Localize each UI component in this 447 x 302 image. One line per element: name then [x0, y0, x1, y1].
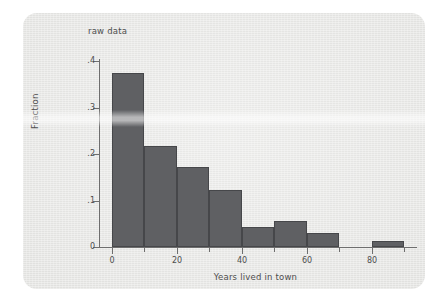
x-tick-mark: [112, 248, 113, 254]
histogram-bar: [242, 227, 274, 247]
x-tick-mark: [339, 248, 340, 252]
histogram-bar: [144, 146, 176, 247]
x-axis-label: Years lived in town: [0, 272, 447, 282]
y-axis-label: Fraction: [30, 93, 40, 129]
x-tick-mark: [144, 248, 145, 252]
histogram-bar: [307, 233, 339, 247]
x-tick-mark: [209, 248, 210, 252]
x-tick-mark: [372, 248, 373, 254]
y-tick-label: .1: [55, 196, 95, 205]
x-tick-label: 20: [162, 256, 192, 265]
x-tick-label: 60: [292, 256, 322, 265]
screenshot-root: raw data Fraction Years lived in town 0.…: [0, 0, 447, 302]
chart-title: raw data: [88, 26, 127, 36]
x-tick-mark: [242, 248, 243, 254]
x-tick-mark: [307, 248, 308, 254]
x-tick-mark: [177, 248, 178, 254]
x-tick-label: 40: [227, 256, 257, 265]
x-tick-label: 80: [357, 256, 387, 265]
histogram-bar: [177, 167, 209, 247]
y-tick-label: 0: [55, 242, 95, 251]
y-tick-label: .4: [55, 56, 95, 65]
histogram-plot: raw data Fraction Years lived in town 0.…: [0, 0, 447, 302]
histogram-bar: [112, 73, 144, 247]
x-axis-label-text: Years lived in town: [214, 272, 297, 282]
x-axis-line: [99, 247, 417, 248]
histogram-bar: [274, 221, 306, 247]
x-tick-mark: [404, 248, 405, 252]
y-tick-label: .3: [55, 103, 95, 112]
histogram-bar: [209, 190, 241, 247]
x-tick-label: 0: [97, 256, 127, 265]
histogram-bar: [372, 241, 404, 247]
x-tick-mark: [274, 248, 275, 252]
y-tick-label: .2: [55, 149, 95, 158]
